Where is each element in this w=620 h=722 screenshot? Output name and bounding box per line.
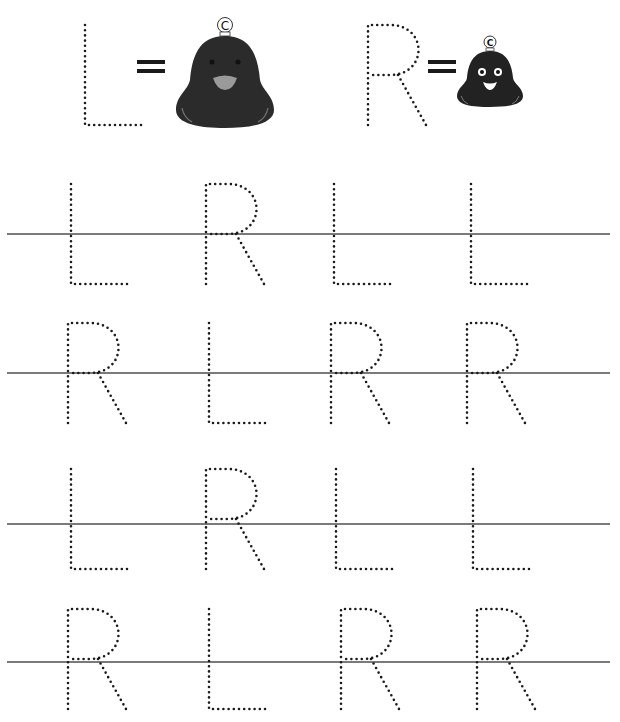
small-bell-icon: C: [457, 36, 523, 107]
tracing-row-2: [7, 323, 610, 423]
large-bell-icon: C: [176, 18, 274, 129]
tracing-row-1: [7, 184, 610, 284]
trace-letter-l[interactable]: [336, 469, 392, 569]
trace-letter-l[interactable]: [71, 469, 127, 569]
legend-r: C: [368, 25, 523, 125]
tracing-row-3: [7, 469, 610, 569]
trace-letter-l[interactable]: [473, 469, 529, 569]
trace-letter-r[interactable]: [206, 469, 264, 569]
equals-sign: [428, 60, 456, 73]
tracing-row-4: [7, 609, 610, 709]
equals-sign: [137, 60, 165, 73]
trace-letter-r[interactable]: [68, 609, 126, 709]
trace-letter-r[interactable]: [341, 609, 399, 709]
bell-label: C: [221, 19, 229, 33]
tracing-worksheet: C C: [0, 0, 620, 722]
bell-label: C: [487, 38, 494, 48]
legend-letter-l: [85, 25, 141, 125]
trace-letter-r[interactable]: [477, 609, 535, 709]
legend-l: C: [85, 18, 274, 129]
trace-letter-l[interactable]: [209, 609, 265, 709]
legend-letter-r: [368, 25, 426, 125]
